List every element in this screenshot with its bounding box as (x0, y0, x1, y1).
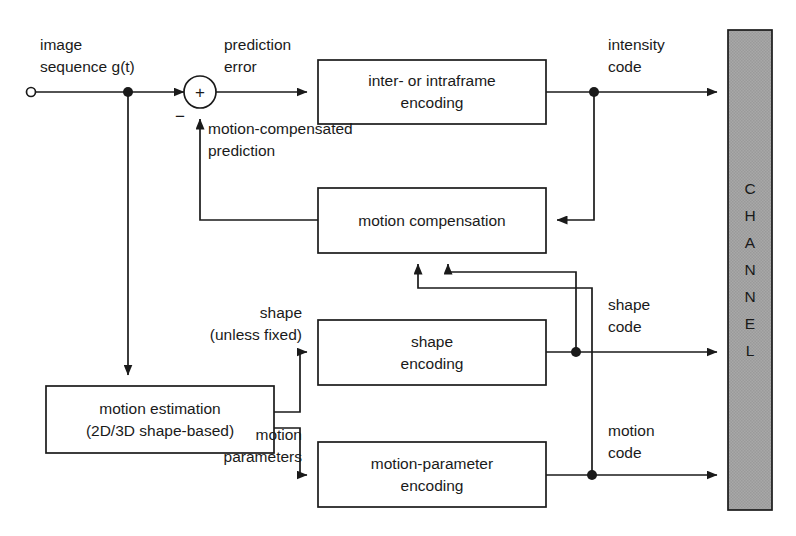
channel-letter: L (746, 342, 755, 359)
signal-label-line: motion (255, 426, 302, 443)
block-inter-intraframe-encoding: inter- or intraframeencoding (318, 60, 546, 124)
signal-label-line: code (608, 444, 642, 461)
plus-sign-label: + (195, 83, 205, 102)
input-branch-dot (123, 87, 133, 97)
block-shape-encoding: shapeencoding (318, 320, 546, 385)
summing-junction: + − (175, 76, 216, 126)
channel-letter: A (745, 234, 756, 251)
signal-label-line: shape (608, 296, 650, 313)
block-label-line: encoding (401, 477, 464, 494)
block-label-line: encoding (401, 355, 464, 372)
shape-code-dot (571, 347, 581, 357)
channel-letter: N (744, 261, 755, 278)
wire-shape-to-shape-encoding (274, 352, 307, 412)
channel-letter: E (745, 315, 755, 332)
block-diagram: CHANNEL inter- or intraframeencodingmoti… (0, 0, 796, 536)
signal-label-line: error (224, 58, 257, 75)
signal-label-line: parameters (224, 448, 303, 465)
input-terminal (27, 88, 36, 97)
signal-label-line: intensity (608, 36, 665, 53)
diagram-canvas: CHANNEL inter- or intraframeencodingmoti… (0, 0, 796, 536)
block-outline (318, 442, 546, 507)
signal-label-line: code (608, 58, 642, 75)
signal-label-line: shape (260, 304, 302, 321)
label-shape-code: shapecode (608, 296, 650, 335)
label-prediction-error: predictionerror (224, 36, 291, 75)
intensity-code-dot (589, 87, 599, 97)
motion-code-dot (587, 470, 597, 480)
block-outline (318, 60, 546, 124)
block-outline (46, 386, 274, 453)
channel-letter: H (744, 207, 755, 224)
label-shape-unless-fixed: shape(unless fixed) (210, 304, 302, 343)
wire-reconstructed-to-motion-compensation (557, 92, 594, 220)
label-intensity-code: intensitycode (608, 36, 665, 75)
block-label-line: motion estimation (99, 400, 220, 417)
block-label-line: inter- or intraframe (368, 72, 495, 89)
signal-label-line: prediction (224, 36, 291, 53)
signal-label-line: code (608, 318, 642, 335)
block-motion-compensation: motion compensation (318, 188, 546, 253)
channel-letter: N (744, 288, 755, 305)
minus-sign-label: − (175, 107, 185, 126)
label-motion-code: motioncode (608, 422, 655, 461)
block-motion-parameter-encoding: motion-parameterencoding (318, 442, 546, 507)
label-image-sequence: imagesequence g(t) (40, 36, 135, 75)
block-label-line: encoding (401, 94, 464, 111)
label-motion-compensated-prediction: motion-compensatedprediction (208, 120, 353, 159)
signal-label-line: sequence g(t) (40, 58, 135, 75)
channel-letter: C (744, 180, 755, 197)
block-label-line: motion-parameter (371, 455, 493, 472)
block-label-line: motion compensation (358, 212, 505, 229)
block-label-line: (2D/3D shape-based) (86, 422, 234, 439)
signal-label-line: (unless fixed) (210, 326, 302, 343)
signal-label-line: motion-compensated (208, 120, 353, 137)
block-outline (318, 320, 546, 385)
block-motion-estimation: motion estimation(2D/3D shape-based) (46, 386, 274, 453)
signal-label-line: image (40, 36, 82, 53)
signal-label-line: motion (608, 422, 655, 439)
block-label-line: shape (411, 333, 453, 350)
signal-label-line: prediction (208, 142, 275, 159)
